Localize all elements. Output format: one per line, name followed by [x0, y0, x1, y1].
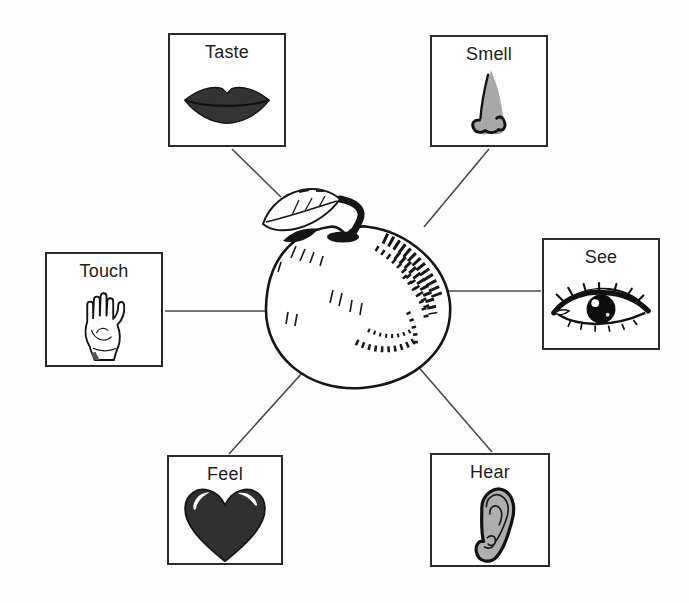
sense-box-taste: Taste [168, 33, 286, 147]
sense-box-feel: Feel [167, 455, 283, 565]
senses-apple-diagram: Taste Smell Touch [0, 0, 689, 603]
sense-box-see: See [542, 238, 660, 350]
heart-icon [169, 485, 281, 563]
hand-icon [47, 282, 161, 365]
sense-label-feel: Feel [207, 464, 243, 485]
sense-label-hear: Hear [470, 462, 510, 483]
apple-leaf [263, 189, 340, 230]
lips-icon [170, 63, 284, 145]
sense-label-see: See [585, 247, 618, 268]
sense-box-smell: Smell [430, 35, 548, 147]
sense-label-smell: Smell [466, 44, 512, 65]
ear-icon [432, 483, 548, 567]
sense-box-hear: Hear [430, 453, 550, 567]
apple-illustration [263, 189, 450, 388]
connector-feel [229, 372, 303, 454]
connector-hear [409, 356, 492, 452]
connector-taste [232, 149, 281, 197]
nose-icon [432, 65, 546, 145]
connector-smell [424, 149, 489, 227]
sense-label-taste: Taste [205, 42, 249, 63]
sense-label-touch: Touch [79, 261, 128, 282]
eye-icon [544, 268, 658, 348]
sense-box-touch: Touch [45, 252, 163, 367]
